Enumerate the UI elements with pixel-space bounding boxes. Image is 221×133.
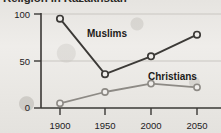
- data-point-christians-1950: [102, 89, 108, 95]
- series-line-christians: [60, 84, 197, 104]
- data-point-muslims-2000: [148, 53, 154, 59]
- data-point-christians-2000: [148, 81, 154, 87]
- plot-area: 100 50 0 1900 1950 2000 2050 Muslims Chr…: [0, 7, 221, 133]
- chart-canvas: [0, 7, 221, 133]
- data-point-muslims-1900: [57, 16, 63, 22]
- data-point-christians-1900: [57, 100, 63, 106]
- data-point-muslims-2050: [194, 32, 200, 38]
- chart-title: Religion in Kazakhstan: [3, 0, 127, 4]
- series-line-muslims: [60, 19, 197, 74]
- data-point-christians-2050: [194, 84, 200, 90]
- chart-screenshot: Religion in Kazakhstan 100 50 0 1900 195…: [0, 0, 221, 133]
- data-point-muslims-1950: [102, 71, 108, 77]
- chart-title-clipped: Religion in Kazakhstan: [0, 0, 221, 7]
